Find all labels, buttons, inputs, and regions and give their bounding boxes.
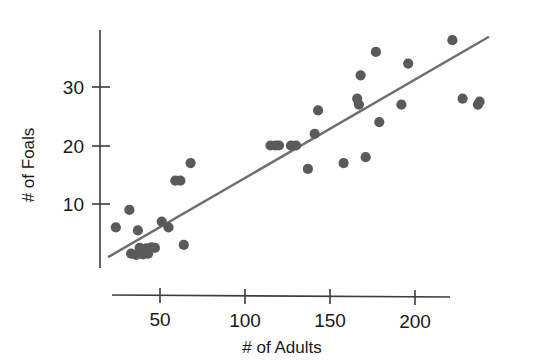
x-axis: 50 100 150 200 # of Adults [112,288,450,357]
y-tick-label-20: 20 [63,136,84,157]
data-point [163,222,173,232]
data-point [175,176,185,186]
y-tick-label-30: 30 [63,77,84,98]
data-point [291,140,301,150]
x-axis-title: # of Adults [242,338,321,357]
data-point [124,205,134,215]
data-point [186,158,196,168]
data-point [111,222,121,232]
y-axis-title: # of Foals [19,128,38,203]
data-points-group [111,35,485,260]
data-point [354,99,364,109]
data-point [303,164,313,174]
y-axis: 30 20 10 # of Foals [19,30,110,268]
data-point [447,35,457,45]
data-point [310,129,320,139]
data-point [396,99,406,109]
x-tick-label-100: 100 [229,310,261,331]
x-tick-label-200: 200 [399,311,431,332]
data-point [150,243,160,253]
data-point [403,59,413,69]
data-point [133,225,143,235]
data-point [361,152,371,162]
data-point [313,105,323,115]
x-axis-line [112,295,450,297]
scatter-chart-figure: 30 20 10 # of Foals 50 100 150 200 # of … [0,0,537,361]
plot-canvas: 30 20 10 # of Foals 50 100 150 200 # of … [0,0,537,361]
data-point [475,97,485,107]
data-point [179,240,189,250]
x-tick-label-150: 150 [314,310,346,331]
data-point [339,158,349,168]
data-point [374,117,384,127]
data-point [371,47,381,57]
x-tick-label-50: 50 [149,309,170,330]
data-point [274,140,284,150]
data-point [356,70,366,80]
data-point [458,94,468,104]
y-tick-label-10: 10 [63,194,84,215]
